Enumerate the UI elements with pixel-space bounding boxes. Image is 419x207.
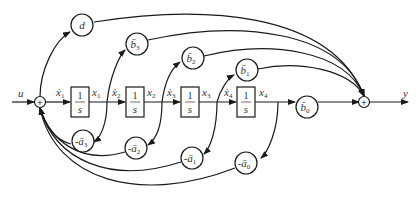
svg-text:s: s [78,103,82,115]
x3dot-label: ẋ3 [166,86,176,100]
output-sum-symbol: + [361,98,366,108]
x4-label: x4 [258,86,268,100]
x2-label: x2 [146,86,156,100]
x4dot-label: ẋ4 [223,86,233,100]
block-diagram: + + u y 1 s ẋ1 x1 1 s ẋ2 x2 1 s ẋ3 x3 1 … [0,0,419,207]
svg-text:1: 1 [78,90,83,101]
gain-b0: b̄0 [296,96,318,118]
gain-neg-a0: -ā0 [235,152,257,174]
svg-text:d: d [79,19,85,31]
input-summing-junction: + [35,97,46,108]
output-summing-junction: + [359,97,370,108]
svg-text:s: s [133,103,137,115]
gain-neg-a2: -ā2 [125,137,147,159]
gain-b1: b̄1 [236,59,258,81]
svg-text:1: 1 [244,90,249,101]
svg-text:s: s [244,103,248,115]
svg-text:1: 1 [188,90,193,101]
x2dot-label: ẋ2 [111,86,121,100]
gain-d: d [71,14,93,36]
gain-neg-a3: -ā3 [72,130,94,152]
x3-label: x3 [201,86,211,100]
input-label: u [18,87,24,99]
output-label: y [402,87,408,99]
x1dot-label: ẋ1 [55,86,65,100]
gain-b3: b̄3 [126,33,148,55]
svg-text:1: 1 [133,90,138,101]
gain-b2: b̄2 [182,47,204,69]
input-sum-symbol: + [37,98,42,108]
x1-label: x1 [91,86,101,100]
gain-neg-a1: -ā1 [181,147,203,169]
svg-text:s: s [188,103,192,115]
